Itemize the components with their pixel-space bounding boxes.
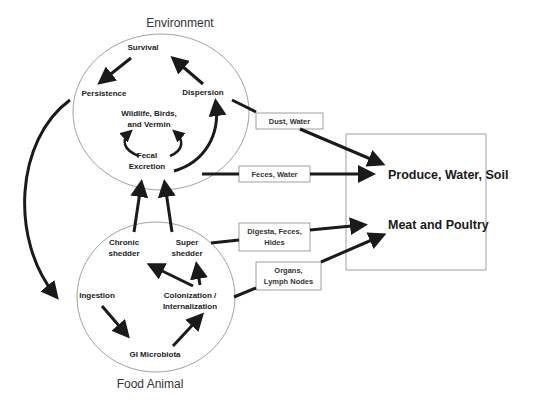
node-fecal-line1: Fecal	[137, 151, 157, 160]
arrow-super-to-fecal	[165, 185, 172, 232]
destination-produce: Produce, Water, Soil	[388, 168, 508, 182]
arrow-ingestion-to-gi	[102, 306, 126, 334]
node-colonization-line1: Colonization /	[164, 291, 217, 300]
food-animal-title: Food Animal	[117, 377, 184, 391]
between-arrows	[25, 100, 172, 295]
node-fecal-line2: Excretion	[129, 162, 166, 171]
arrow-gi-to-colonization	[173, 317, 200, 346]
destination-meat: Meat and Poultry	[388, 218, 489, 232]
arrow-fecal-to-wildlife-right	[170, 132, 181, 156]
node-chronic-line1: Chronic	[109, 238, 140, 247]
food-safety-diagram: Environment Food Animal Survival Persist…	[0, 0, 545, 407]
arrow-persistence-to-ingestion	[25, 100, 70, 295]
arrow-chronic-to-fecal	[134, 185, 141, 232]
destination-box	[346, 134, 486, 270]
node-colonization-line2: Internalization	[163, 302, 217, 311]
node-super-line1: Super	[176, 238, 199, 247]
node-persistence: Persistence	[82, 89, 127, 98]
node-survival: Survival	[127, 43, 158, 52]
arrow-colonization-to-chronic	[152, 266, 193, 286]
node-wildlife-line2: and Vermin	[127, 120, 170, 129]
node-gi-microbiota: GI Microbiota	[129, 350, 181, 359]
pathway-dust-water: Dust, Water	[269, 117, 310, 126]
node-dispersion: Dispersion	[182, 88, 223, 97]
pathway-organs-line1: Organs,	[274, 266, 302, 275]
arrow-colonization-to-super	[197, 267, 200, 285]
pathway-digesta-line1: Digesta, Feces,	[247, 227, 302, 236]
arrow-survival-to-persistence	[102, 58, 131, 81]
arrow-organs-to-meat	[321, 236, 381, 262]
arrow-digesta-to-meat	[310, 225, 362, 230]
node-ingestion: Ingestion	[79, 291, 115, 300]
node-wildlife-line1: Wildlife, Birds,	[121, 109, 177, 118]
arrow-dispersion-to-survival	[175, 60, 203, 84]
node-chronic-line2: shedder	[108, 249, 139, 258]
pathway-organs-line2: Lymph Nodes	[264, 277, 313, 286]
environment-title: Environment	[146, 16, 214, 30]
pathway-feces-water: Feces, Water	[252, 170, 298, 179]
node-super-line2: shedder	[171, 249, 202, 258]
pathway-digesta-line2: Hides	[264, 238, 284, 247]
